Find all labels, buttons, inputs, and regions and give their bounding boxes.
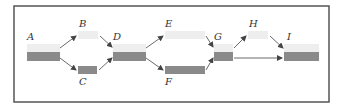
node-b: B — [78, 18, 98, 39]
arrow-c-to-d — [99, 58, 112, 70]
node-bar-dark — [165, 66, 205, 74]
node-a: A — [26, 31, 60, 61]
node-h: H — [248, 18, 268, 39]
arrow-a-to-b — [60, 36, 76, 48]
node-bar-dark — [113, 52, 146, 61]
node-bar-light — [78, 31, 98, 39]
precedence-diagram: ABCDEFGHI — [0, 0, 344, 109]
node-d: D — [112, 31, 146, 61]
node-label: A — [26, 31, 34, 42]
node-bar-light — [248, 31, 268, 39]
node-g: G — [214, 31, 233, 61]
node-e: E — [164, 18, 205, 39]
arrow-g-to-h — [234, 36, 246, 48]
node-i: I — [284, 31, 319, 61]
arrow-a-to-c — [60, 58, 76, 70]
node-c: C — [78, 66, 97, 87]
arrow-h-to-i — [270, 36, 283, 48]
edges — [60, 36, 283, 70]
node-bar-light — [214, 44, 233, 52]
node-bar-light — [113, 44, 146, 52]
node-label: H — [248, 18, 258, 29]
arrow-b-to-d — [100, 36, 112, 47]
node-bar-light — [165, 31, 205, 39]
node-label: F — [164, 76, 173, 87]
node-label: E — [164, 18, 173, 29]
node-bar-light — [27, 44, 60, 52]
node-bar-dark — [284, 52, 319, 61]
arrow-d-to-e — [146, 36, 163, 48]
node-label: G — [214, 31, 222, 42]
arrow-e-to-g — [206, 36, 213, 47]
arrow-d-to-f — [146, 58, 163, 70]
node-label: B — [78, 18, 86, 29]
node-label: D — [112, 31, 121, 42]
node-bar-dark — [214, 52, 233, 61]
node-label: C — [79, 76, 87, 87]
node-label: I — [286, 31, 292, 42]
arrow-f-to-g — [206, 58, 213, 70]
node-bar-light — [284, 44, 319, 52]
nodes: ABCDEFGHI — [26, 18, 319, 87]
node-bar-dark — [27, 52, 60, 61]
node-bar-dark — [78, 66, 97, 74]
node-f: F — [164, 66, 205, 87]
